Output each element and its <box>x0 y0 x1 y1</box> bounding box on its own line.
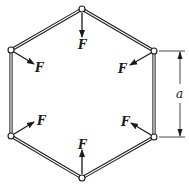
force-arrow-lower-right <box>131 123 151 135</box>
force-label-upper-right: F <box>117 62 128 76</box>
joint-lower-left <box>8 133 14 139</box>
dimension-label-a: a <box>176 87 183 101</box>
joint-lower-right <box>151 134 157 140</box>
force-label-bottom: F <box>77 138 88 152</box>
force-label-upper-left: F <box>34 61 45 75</box>
force-label-lower-right: F <box>120 115 131 129</box>
joint-bottom <box>79 175 85 181</box>
force-label-top: F <box>77 38 88 52</box>
hexagon-frame-diagram: F F F F F F a <box>0 0 189 192</box>
joint-top <box>79 6 85 12</box>
joint-upper-left <box>8 47 14 53</box>
force-arrow-lower-left <box>14 122 34 134</box>
force-label-lower-left: F <box>36 114 47 128</box>
force-arrow-upper-right <box>130 53 151 65</box>
force-arrow-upper-left <box>14 52 34 64</box>
joint-upper-right <box>151 48 157 54</box>
